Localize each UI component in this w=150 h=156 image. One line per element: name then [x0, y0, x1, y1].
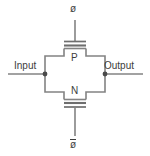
output-junction-dot [103, 72, 108, 77]
circuit-schematic-svg [0, 0, 150, 156]
gate-body-left-outline [45, 49, 64, 100]
clock-complement-overbar: ø [70, 139, 76, 150]
output-label: Output [104, 61, 134, 71]
clock-top-label: ø [70, 4, 76, 14]
transmission-gate-diagram: Input Output P N ø ø [0, 0, 150, 156]
gate-body-right-outline [86, 49, 105, 100]
input-label: Input [14, 61, 36, 71]
nmos-label: N [71, 86, 78, 96]
clock-bottom-label: ø [70, 139, 76, 150]
pmos-label: P [71, 53, 78, 63]
input-junction-dot [43, 72, 48, 77]
